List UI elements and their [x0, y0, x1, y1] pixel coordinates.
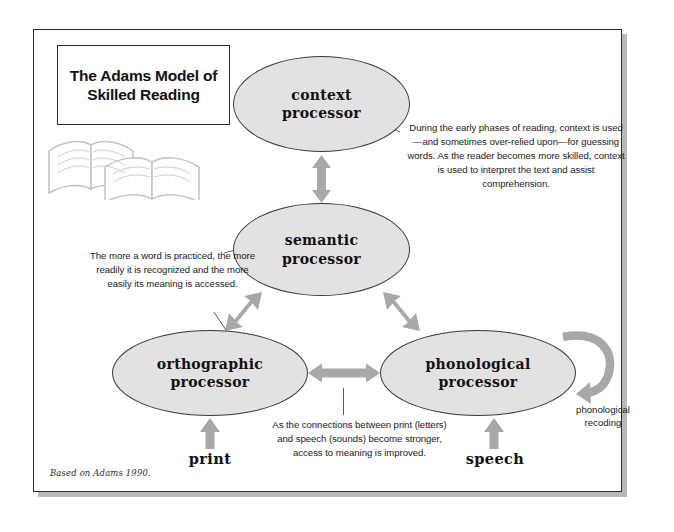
loop-label-line1: phonological — [557, 404, 649, 417]
node-label-line1: semantic — [282, 231, 361, 249]
node-phonological-processor[interactable]: phonological processor — [380, 330, 576, 416]
figure-canvas: The Adams Model of Skilled Reading conte — [0, 0, 674, 532]
source-credit: Based on Adams 1990. — [50, 468, 151, 478]
title-line-2: Skilled Reading — [70, 85, 217, 104]
node-label-line2: processor — [157, 373, 263, 391]
node-label-line2: processor — [425, 373, 530, 391]
node-context-processor-label: context processor — [282, 86, 361, 122]
input-label-speech: speech — [430, 450, 560, 467]
title-line-1: The Adams Model of — [70, 66, 217, 85]
input-label-print: print — [150, 450, 270, 467]
page-title: The Adams Model of Skilled Reading — [70, 66, 217, 105]
node-label-line1: orthographic — [157, 355, 263, 373]
loop-label-phonological-recoding: phonological recoding — [557, 404, 649, 430]
open-books-icon — [45, 105, 230, 200]
node-orthographic-processor[interactable]: orthographic processor — [112, 330, 308, 416]
node-semantic-processor-label: semantic processor — [282, 231, 361, 267]
annotation-connection-note: As the connections between print (letter… — [272, 418, 447, 460]
node-phonological-processor-label: phonological processor — [425, 355, 530, 391]
loop-label-line2: recoding — [557, 417, 649, 430]
node-label-line1: phonological — [425, 355, 530, 373]
annotation-semantic-note: The more a word is practiced, the more r… — [84, 249, 261, 291]
node-label-line2: processor — [282, 104, 361, 122]
node-orthographic-processor-label: orthographic processor — [157, 355, 263, 391]
node-context-processor[interactable]: context processor — [233, 56, 410, 152]
annotation-context-note: During the early phases of reading, cont… — [405, 121, 627, 191]
node-label-line2: processor — [282, 250, 361, 268]
node-label-line1: context — [282, 86, 361, 104]
